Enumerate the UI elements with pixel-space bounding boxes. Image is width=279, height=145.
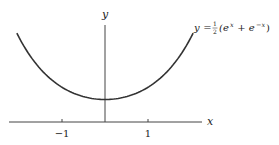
x-tick-label-pos1: 1 (145, 128, 151, 139)
eq-close: ) (266, 22, 270, 33)
x-tick-label-neg1: −1 (55, 128, 70, 139)
eq-half-denominator: 2 (213, 28, 217, 35)
x-axis-label: x (207, 115, 214, 128)
eq-exp2: −x (256, 21, 265, 29)
eq-plus: + e (234, 22, 255, 33)
equation-label: y = 1 2 (e x + e −x ) (193, 20, 270, 35)
eq-open: (e (219, 22, 229, 33)
y-axis-label: y (101, 8, 109, 21)
cosh-chart: y x −1 1 y = 1 2 (e x + e −x ) (0, 0, 279, 145)
eq-y: y (193, 22, 200, 33)
eq-half-numerator: 1 (213, 20, 217, 27)
